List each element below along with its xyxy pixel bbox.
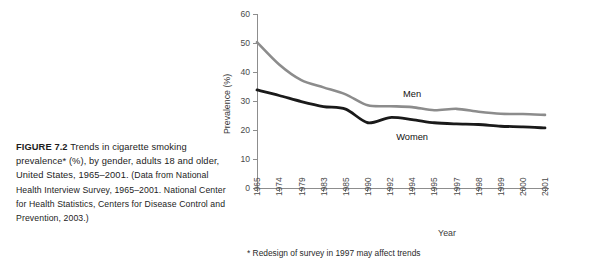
x-axis-tick-label: 1979 [297,177,307,196]
series-label-men: Men [403,89,421,99]
y-axis-tick-label: 40 [240,67,250,77]
x-axis-tick-label: 1995 [429,177,439,196]
x-axis-tick-label: 1990 [363,177,373,196]
series-label-women: Women [396,132,428,142]
y-axis-tick-labels: 0102030405060 [240,9,250,193]
x-axis-tick-label: 1992 [385,177,395,196]
x-axis-tick-label: 1965 [252,177,262,196]
x-axis-tick-label: 2000 [518,177,528,196]
x-axis-tick-label: 2001 [540,177,550,196]
x-axis-tick-label: 1999 [496,177,506,196]
y-axis-tick-label: 60 [240,9,250,19]
chart-series-labels: MenWomen [396,89,428,142]
chart-footnote: * Redesign of survey in 1997 may affect … [247,248,421,258]
x-axis-tick-label: 1994 [407,177,417,196]
series-line-women [257,90,545,128]
figure-caption: FIGURE 7.2 Trends in cigarette smoking p… [16,140,230,225]
y-axis-title: Prevalence (%) [222,74,232,134]
x-axis-tick-label: 1998 [474,177,484,196]
x-axis-tick-label: 1997 [452,177,462,196]
x-axis-tick-label: 1983 [319,177,329,196]
y-axis-tick-label: 0 [245,183,250,193]
line-chart: 0102030405060 19651974197919831985199019… [215,0,609,271]
x-axis-tick-label: 1985 [341,177,351,196]
series-line-men [257,42,545,115]
y-axis-tick-label: 10 [240,154,250,164]
x-axis-tick-labels: 1965197419791983198519901992199419951997… [252,177,550,196]
y-axis-tick-label: 20 [240,125,250,135]
chart-series [257,42,545,128]
x-axis-title: Year [438,228,456,238]
figure-caption-label: FIGURE 7.2 [16,142,68,152]
x-axis-tick-label: 1974 [274,177,284,196]
y-axis-tick-label: 30 [240,96,250,106]
figure-7-2: FIGURE 7.2 Trends in cigarette smoking p… [0,0,609,271]
y-axis-tick-label: 50 [240,38,250,48]
